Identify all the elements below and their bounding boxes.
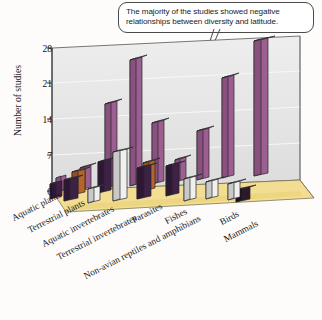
x-label-birds: Birds <box>218 209 240 227</box>
x-label-parasites: Parasites <box>130 201 164 225</box>
x-label-non-avian-reptiles-and-amphibians: Non-avian reptiles and amphibians <box>82 213 202 281</box>
figure-canvas: The majority of the studies showed negat… <box>0 0 322 320</box>
x-axis-labels: Aquatic plants Terrestrial plants Aquati… <box>0 0 322 320</box>
